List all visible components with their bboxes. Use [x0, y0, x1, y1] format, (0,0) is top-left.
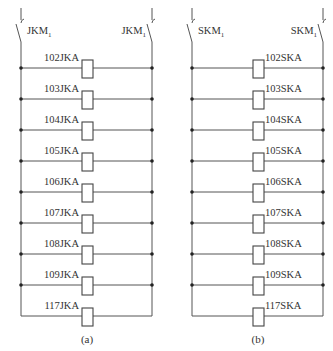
relay-row: 106SKA — [190, 176, 325, 202]
switch-label: SKM1 — [198, 25, 225, 39]
relay-row: 109SKA — [190, 269, 325, 295]
relay-label: 104SKA — [265, 114, 302, 125]
panel-caption: (b) — [252, 333, 265, 346]
junction-dot-icon — [190, 128, 194, 132]
junction-dot-icon — [321, 159, 325, 163]
relay-row: 109JKA — [19, 269, 154, 295]
relay-coil-icon — [253, 215, 264, 233]
junction-dot-icon — [190, 221, 194, 225]
junction-dot-icon — [190, 159, 194, 163]
junction-dot-icon — [19, 128, 23, 132]
relay-label: 117SKA — [265, 300, 302, 311]
junction-dot-icon — [321, 283, 325, 287]
relay-label: 104JKA — [44, 114, 79, 125]
junction-dot-icon — [321, 66, 325, 70]
relay-coil-icon — [253, 153, 264, 171]
relay-label: 107SKA — [265, 207, 302, 218]
relay-coil-icon — [82, 308, 93, 326]
junction-dot-icon — [321, 190, 325, 194]
junction-dot-icon — [150, 128, 154, 132]
relay-label: 106JKA — [44, 176, 79, 187]
relay-row: 103JKA — [19, 83, 154, 109]
relay-coil-icon — [82, 122, 93, 140]
relay-coil-icon — [253, 246, 264, 264]
relay-label: 102SKA — [265, 52, 302, 63]
junction-dot-icon — [190, 66, 194, 70]
junction-dot-icon — [321, 128, 325, 132]
relay-coil-icon — [253, 308, 264, 326]
junction-dot-icon — [150, 252, 154, 256]
relay-row: 108SKA — [190, 238, 325, 264]
relay-coil-icon — [82, 215, 93, 233]
switch-blade-icon — [16, 24, 21, 42]
relay-row: 107SKA — [190, 207, 325, 233]
switch-label: SKM1 — [291, 25, 318, 39]
junction-dot-icon — [190, 190, 194, 194]
junction-dot-icon — [19, 252, 23, 256]
relay-label: 108SKA — [265, 238, 302, 249]
relay-label: 105JKA — [44, 145, 79, 156]
relay-label: 105SKA — [265, 145, 302, 156]
junction-dot-icon — [19, 190, 23, 194]
panel-a: JKM1JKM1102JKA103JKA104JKA105JKA106JKA10… — [16, 8, 155, 346]
junction-dot-icon — [150, 97, 154, 101]
switch-label: JKM1 — [121, 25, 146, 39]
junction-dot-icon — [321, 252, 325, 256]
junction-dot-icon — [321, 97, 325, 101]
relay-row: 102SKA — [190, 52, 325, 78]
panel-caption: (a) — [81, 333, 94, 346]
relay-label: 106SKA — [265, 176, 302, 187]
relay-row: 102JKA — [19, 52, 154, 78]
switch-blade-icon — [147, 24, 152, 42]
relay-coil-icon — [82, 60, 93, 78]
relay-row: 108JKA — [19, 238, 154, 264]
relay-row: 105SKA — [190, 145, 325, 171]
relay-label: 103JKA — [44, 83, 79, 94]
panel-b: SKM1SKM1102SKA103SKA104SKA105SKA106SKA10… — [187, 8, 326, 346]
junction-dot-icon — [190, 283, 194, 287]
relay-coil-icon — [82, 277, 93, 295]
junction-dot-icon — [150, 283, 154, 287]
switch-label: JKM1 — [27, 25, 52, 39]
relay-coil-icon — [253, 60, 264, 78]
switch-right: JKM1 — [121, 8, 155, 316]
junction-dot-icon — [190, 252, 194, 256]
switch-blade-icon — [187, 24, 192, 42]
junction-dot-icon — [190, 97, 194, 101]
junction-dot-icon — [321, 221, 325, 225]
relay-label: 117JKA — [44, 300, 79, 311]
relay-label: 102JKA — [44, 52, 79, 63]
relay-label: 103SKA — [265, 83, 302, 94]
relay-row: 107JKA — [19, 207, 154, 233]
relay-label: 109SKA — [265, 269, 302, 280]
relay-coil-icon — [82, 91, 93, 109]
junction-dot-icon — [19, 221, 23, 225]
relay-label: 107JKA — [44, 207, 79, 218]
junction-dot-icon — [150, 66, 154, 70]
relay-row: 117JKA — [21, 300, 152, 326]
relay-label: 108JKA — [44, 238, 79, 249]
junction-dot-icon — [19, 66, 23, 70]
relay-coil-icon — [82, 153, 93, 171]
relay-label: 109JKA — [44, 269, 79, 280]
relay-row: 104SKA — [190, 114, 325, 140]
relay-coil-icon — [82, 246, 93, 264]
relay-coil-icon — [253, 277, 264, 295]
junction-dot-icon — [150, 221, 154, 225]
relay-ladder-diagram: JKM1JKM1102JKA103JKA104JKA105JKA106JKA10… — [0, 0, 333, 351]
junction-dot-icon — [150, 159, 154, 163]
relay-row: 104JKA — [19, 114, 154, 140]
relay-row: 117SKA — [192, 300, 323, 326]
junction-dot-icon — [19, 159, 23, 163]
relay-row: 103SKA — [190, 83, 325, 109]
relay-coil-icon — [82, 184, 93, 202]
relay-row: 106JKA — [19, 176, 154, 202]
relay-row: 105JKA — [19, 145, 154, 171]
junction-dot-icon — [19, 283, 23, 287]
junction-dot-icon — [19, 97, 23, 101]
relay-coil-icon — [253, 122, 264, 140]
relay-coil-icon — [253, 91, 264, 109]
relay-coil-icon — [253, 184, 264, 202]
switch-blade-icon — [318, 24, 323, 42]
junction-dot-icon — [150, 190, 154, 194]
